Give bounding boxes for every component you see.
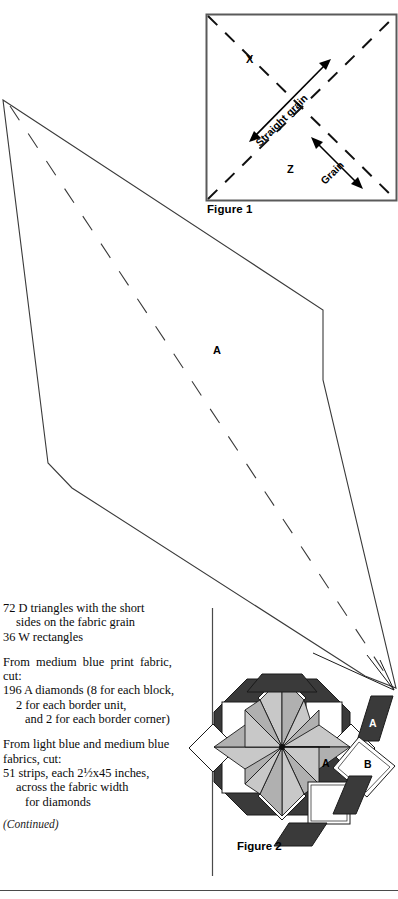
fold-line [10, 106, 392, 684]
instruction-line: for diamonds [3, 795, 187, 809]
figure1-label-x: X [246, 53, 253, 65]
cutting-instructions: 72 D triangles with the short sides on t… [3, 601, 187, 809]
exploded-square-white [308, 782, 350, 824]
instruction-line: From light blue and medium blue [3, 737, 187, 751]
instruction-line: 2 for each border unit, [3, 698, 187, 712]
instruction-line: 51 strips, each 2½x45 inches, [3, 766, 187, 780]
corner-squares [189, 674, 375, 820]
instruction-line: From medium blue print fabric, [3, 655, 187, 669]
straight-grain-label: Straight grain [253, 92, 310, 149]
instruction-paragraph: From light blue and medium blue fabrics,… [3, 737, 187, 808]
straight-grain-arrow [249, 59, 331, 142]
leader-lines [313, 653, 394, 690]
figure2-caption: Figure 2 [237, 840, 282, 852]
instruction-line: 36 W rectangles [3, 630, 187, 644]
page-root: X Z Straight grain Grain Figure 1 A 72 D… [0, 0, 398, 899]
instruction-line: across the fabric width [3, 780, 187, 794]
template-piece-a-shape [3, 100, 396, 688]
template-piece-a-label: A [213, 344, 221, 356]
instruction-line: 196 A diamonds (8 for each block, [3, 683, 187, 697]
dark-piece-bottom-right [333, 776, 372, 814]
figure2-label-a-star: A [322, 757, 330, 769]
instruction-line: cut: [3, 669, 187, 683]
instruction-line: and 2 for each border corner) [3, 712, 187, 726]
instruction-line: fabrics, cut: [3, 752, 187, 766]
lemoyne-star [214, 678, 350, 816]
continued-note: (Continued) [3, 818, 59, 830]
instruction-paragraph: 72 D triangles with the short sides on t… [3, 601, 187, 644]
octagon-ground [214, 679, 350, 815]
figure1-label-z: Z [287, 163, 294, 175]
figure1-caption: Figure 1 [207, 203, 253, 215]
figure2-label-b-exploded: B [364, 758, 372, 770]
instruction-line: sides on the fabric grain [3, 615, 187, 629]
figure2-label-a-exploded: A [369, 717, 377, 729]
dark-piece-top [247, 674, 317, 692]
instruction-paragraph: From medium blue print fabric, cut: 196 … [3, 655, 187, 726]
instruction-line: 72 D triangles with the short [3, 601, 144, 615]
figure2-art [189, 653, 395, 846]
grain-label: Grain [318, 159, 346, 187]
dark-piece-bottom [274, 823, 327, 846]
